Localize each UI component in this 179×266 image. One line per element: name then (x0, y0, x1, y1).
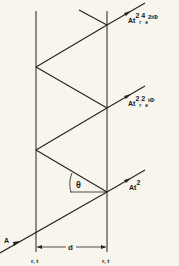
output-2-label: At2r2eiΦ (128, 95, 155, 108)
output-1-label: At2 (129, 179, 140, 191)
fabry-perot-diagram: θ d r, t r, t A At2 At2r2eiΦ At2r4e2iΦ (0, 0, 179, 266)
arrow-icon (124, 94, 131, 99)
incident-label: A (4, 237, 9, 244)
arrow-icon (37, 245, 42, 249)
internal-ray (36, 150, 107, 192)
right-mirror-label: r, t (102, 258, 109, 264)
arrow-icon (124, 11, 131, 16)
angle-label: θ (76, 180, 81, 190)
angle-arc (70, 173, 72, 192)
arrow-icon (124, 178, 131, 183)
internal-ray (79, 10, 107, 25)
spacing-label: d (68, 243, 73, 252)
internal-ray (36, 25, 107, 67)
internal-ray (36, 67, 107, 108)
arrow-icon (101, 245, 106, 249)
left-mirror-label: r, t (31, 258, 38, 264)
internal-ray (36, 108, 107, 150)
arrow-icon (13, 241, 20, 246)
output-3-label: At2r4e2iΦ (128, 12, 158, 25)
